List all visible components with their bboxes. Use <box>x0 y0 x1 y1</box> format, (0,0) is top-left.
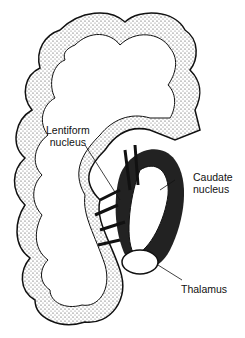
label-line-2: nucleus <box>46 136 90 148</box>
label-line-2: nucleus <box>193 183 233 195</box>
label-caudate-nucleus: Caudate nucleus <box>193 171 233 195</box>
label-thalamus: Thalamus <box>181 283 227 295</box>
label-lentiform-nucleus: Lentiform nucleus <box>46 124 90 148</box>
label-line-1: Caudate <box>193 171 233 183</box>
label-line-1: Lentiform <box>46 124 90 136</box>
